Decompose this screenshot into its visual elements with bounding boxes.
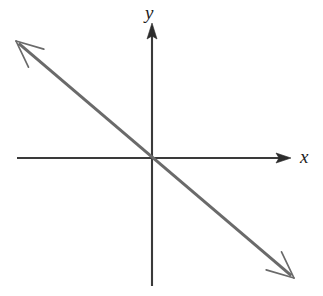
x-axis-label: x	[300, 147, 308, 166]
coordinate-plane-figure: y x	[0, 0, 323, 296]
plotted-line-negative-slope	[19, 43, 292, 275]
figure-svg-canvas	[0, 0, 323, 296]
y-axis-label: y	[145, 3, 153, 22]
